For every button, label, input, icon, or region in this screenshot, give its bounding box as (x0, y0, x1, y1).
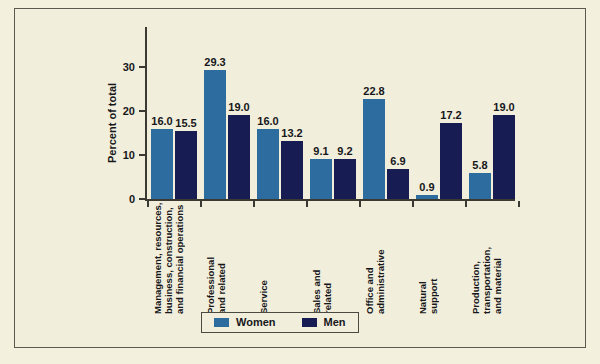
category-label: Management, resources, business, constru… (152, 209, 185, 314)
bar-value-label: 19.0 (488, 101, 520, 113)
bar-chart-plot: Percent of total 0102030 16.015.529.319.… (15, 9, 587, 349)
bar-value-label: 6.9 (382, 155, 414, 167)
chart-legend: WomenMen (201, 312, 359, 333)
bar-women (151, 129, 173, 199)
y-tick-label: 20 (111, 106, 135, 116)
chart-figure: Percent of total 0102030 16.015.529.319.… (14, 8, 586, 348)
bar-men (334, 159, 356, 199)
bar-women (416, 195, 438, 199)
bar-value-label: 16.0 (252, 115, 284, 127)
bar-value-label: 5.8 (464, 159, 496, 171)
y-axis-title: Percent of total (103, 53, 121, 193)
bar-women (363, 99, 385, 199)
bar-value-label: 29.3 (199, 56, 231, 68)
bar-value-label: 13.2 (276, 127, 308, 139)
category-label: Office and administrative (364, 209, 386, 314)
bar-men (493, 115, 515, 199)
x-tick-mark (518, 201, 520, 207)
bar-men (175, 131, 197, 199)
x-tick-mark (200, 201, 202, 207)
x-tick-mark (412, 201, 414, 207)
legend-swatch (214, 318, 229, 327)
bar-men (440, 123, 462, 199)
category-label: Service (258, 209, 269, 314)
legend-swatch (302, 318, 317, 327)
bar-value-label: 19.0 (223, 101, 255, 113)
y-tick-mark (139, 66, 145, 68)
x-tick-mark (253, 201, 255, 207)
x-tick-mark (147, 201, 149, 207)
category-label: Production, transportation, and material (470, 209, 503, 314)
bar-men (387, 169, 409, 199)
bar-value-label: 9.2 (329, 145, 361, 157)
category-label: Sales and related (311, 209, 333, 314)
legend-item: Women (214, 317, 276, 328)
bar-value-label: 17.2 (435, 109, 467, 121)
bar-women (469, 173, 491, 199)
bar-women (257, 129, 279, 199)
y-tick-label: 10 (111, 150, 135, 160)
x-tick-mark (359, 201, 361, 207)
legend-label: Men (324, 317, 346, 328)
category-label: Natural support (417, 209, 439, 314)
legend-label: Women (236, 317, 276, 328)
y-tick-mark (139, 198, 145, 200)
bar-men (228, 115, 250, 199)
bar-women (310, 159, 332, 199)
y-tick-label: 0 (111, 194, 135, 204)
y-tick-label: 30 (111, 62, 135, 72)
x-tick-mark (465, 201, 467, 207)
bar-men (281, 141, 303, 199)
category-label: Professional and related (205, 209, 227, 314)
bar-value-label: 22.8 (358, 85, 390, 97)
bar-women (204, 70, 226, 199)
bar-value-label: 0.9 (411, 181, 443, 193)
y-tick-mark (139, 110, 145, 112)
bar-value-label: 15.5 (170, 117, 202, 129)
x-tick-mark (306, 201, 308, 207)
legend-item: Men (302, 317, 346, 328)
y-tick-mark (139, 154, 145, 156)
